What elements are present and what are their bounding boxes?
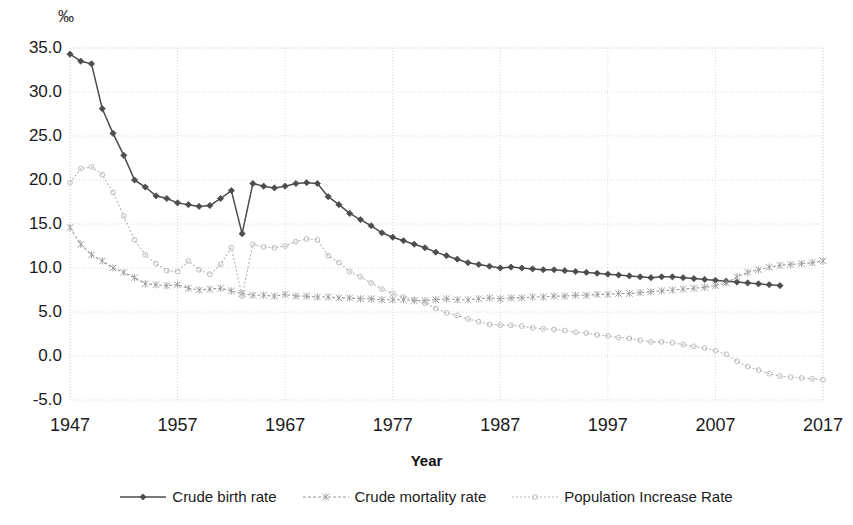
legend-item[interactable]: Crude birth rate	[120, 488, 276, 505]
x-axis-tick-label: 1977	[373, 415, 413, 436]
chart-series-2	[68, 164, 826, 382]
x-axis-tick-label: 1947	[50, 415, 90, 436]
x-axis-tick-label: 2007	[695, 415, 735, 436]
legend-marker-icon	[303, 491, 349, 503]
chart-legend: Crude birth rateCrude mortality ratePopu…	[0, 488, 853, 505]
legend-label: Population Increase Rate	[564, 488, 732, 505]
x-axis-tick-label: 1987	[480, 415, 520, 436]
x-axis-title: Year	[0, 452, 853, 469]
y-axis-tick-label: 35.0	[4, 38, 62, 58]
y-axis-tick-label: 0.0	[4, 346, 62, 366]
y-axis-tick-label: -5.0	[4, 390, 62, 410]
chart-container: ‰ 35.030.025.020.015.010.05.00.0-5.0 194…	[0, 0, 853, 525]
chart-plot-area	[0, 0, 853, 525]
x-axis-tick-label: 2017	[803, 415, 843, 436]
chart-gridlines	[70, 48, 823, 400]
legend-item[interactable]: Population Increase Rate	[512, 488, 732, 505]
chart-series-1	[67, 224, 827, 304]
legend-marker-icon	[120, 491, 166, 503]
x-axis-tick-label: 1957	[158, 415, 198, 436]
y-axis-tick-label: 30.0	[4, 82, 62, 102]
y-axis-tick-label: 25.0	[4, 126, 62, 146]
y-axis-tick-label: 15.0	[4, 214, 62, 234]
y-axis-tick-labels: 35.030.025.020.015.010.05.00.0-5.0	[0, 0, 62, 525]
legend-label: Crude mortality rate	[355, 488, 487, 505]
x-axis-tick-label: 1997	[588, 415, 628, 436]
legend-marker-icon	[512, 491, 558, 503]
legend-item[interactable]: Crude mortality rate	[303, 488, 487, 505]
y-axis-tick-label: 20.0	[4, 170, 62, 190]
y-axis-tick-label: 10.0	[4, 258, 62, 278]
y-axis-tick-label: 5.0	[4, 302, 62, 322]
chart-series-0	[67, 51, 783, 289]
x-axis-tick-label: 1967	[265, 415, 305, 436]
legend-label: Crude birth rate	[172, 488, 276, 505]
